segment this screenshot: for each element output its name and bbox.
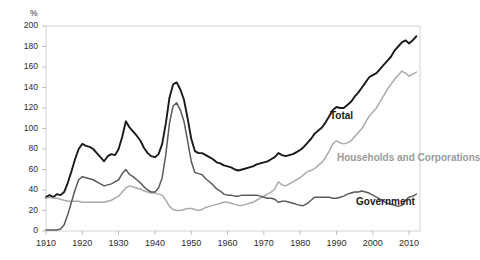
y-tick-label: 80: [12, 144, 38, 153]
x-tick-label: 1910: [26, 238, 66, 248]
y-tick-label: 160: [12, 62, 38, 71]
x-tick-label: 1980: [280, 238, 320, 248]
y-tick-label: 100: [12, 124, 38, 133]
x-tick-label: 1960: [208, 238, 248, 248]
x-tick-label: 1930: [99, 238, 139, 248]
y-tick-label: 0: [12, 226, 38, 235]
x-tick-label: 1920: [62, 238, 102, 248]
x-tick-label: 2000: [353, 238, 393, 248]
y-axis-tick-marks: [42, 26, 46, 231]
x-tick-label: 1990: [316, 238, 356, 248]
y-tick-label: 60: [12, 165, 38, 174]
series-label-total: Total: [330, 110, 353, 122]
y-tick-label: 20: [12, 206, 38, 215]
y-tick-label: 140: [12, 83, 38, 92]
y-tick-label: 200: [12, 21, 38, 30]
y-tick-label: 40: [12, 185, 38, 194]
series-label-government: Government: [356, 196, 415, 208]
y-tick-label: 120: [12, 103, 38, 112]
y-tick-label: 180: [12, 42, 38, 51]
x-axis-tick-marks: [46, 231, 409, 235]
series-label-households-and-corporations: Households and Corporations: [337, 152, 480, 164]
x-tick-label: 1940: [135, 238, 175, 248]
x-tick-label: 1970: [244, 238, 284, 248]
x-tick-label: 1950: [171, 238, 211, 248]
x-tick-label: 2010: [389, 238, 429, 248]
